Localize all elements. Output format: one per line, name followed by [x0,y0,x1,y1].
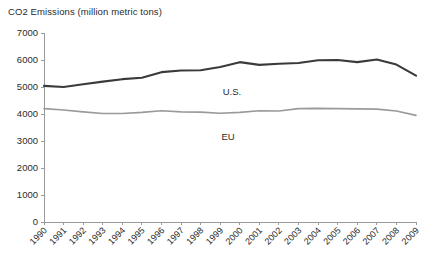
y-axis-tick-label: 4000 [17,108,38,119]
x-axis-tick-label: 1991 [47,225,68,246]
x-axis-tick-label: 1998 [184,225,205,246]
series-annotations: U.S.EU [221,86,241,142]
x-axis-tick-label: 2002 [263,225,284,246]
y-axis-tick-label: 2000 [17,162,38,173]
y-axis-tick-label: 1000 [17,189,38,200]
x-axis-tick-label: 1996 [145,225,166,246]
x-axis-tick-label: 1990 [28,225,49,246]
series-label-u-s: U.S. [223,86,241,97]
y-axis-tick-label: 0 [33,216,38,227]
x-axis-tick-label: 2003 [282,225,303,246]
x-axis-tick-label: 1992 [67,225,88,246]
x-axis-tick-label: 2000 [223,225,244,246]
y-axis: 01000200030004000500060007000 [17,27,44,227]
x-axis-tick-label: 2005 [321,225,342,246]
x-axis-tick-label: 2001 [243,225,264,246]
series-line-u-s [44,59,416,87]
chart-container: CO2 Emissions (million metric tons) 0100… [0,0,435,261]
line-chart-plot: 01000200030004000500060007000 1990199119… [0,0,435,261]
x-axis-tick-label: 1994 [106,225,127,246]
y-axis-tick-label: 5000 [17,81,38,92]
series-label-eu: EU [221,131,234,142]
x-axis-tick-label: 2008 [380,225,401,246]
x-axis-tick-label: 2007 [361,225,382,246]
x-axis-tick-label: 1993 [86,225,107,246]
series-line-eu [44,108,416,115]
y-axis-tick-label: 3000 [17,135,38,146]
y-axis-tick-label: 6000 [17,54,38,65]
x-axis-tick-label: 2009 [400,225,421,246]
y-axis-tick-label: 7000 [17,27,38,38]
x-axis-tick-label: 1995 [126,225,147,246]
x-axis-tick-label: 2006 [341,225,362,246]
x-axis-tick-label: 1997 [165,225,186,246]
x-axis: 1990199119921993199419951996199719981999… [28,222,421,247]
x-axis-tick-label: 1999 [204,225,225,246]
x-axis-tick-label: 2004 [302,225,323,246]
